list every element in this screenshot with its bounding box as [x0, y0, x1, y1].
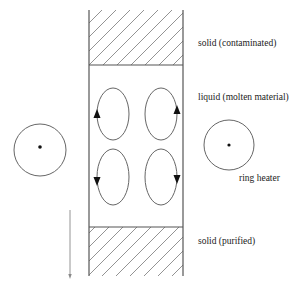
convection-cell-bottom-right [145, 149, 181, 205]
convection-cell-top-left [94, 88, 130, 140]
label-solid-purified: solid (purified) [198, 237, 255, 247]
ring-heater-left [14, 124, 66, 176]
arrow-down-icon [94, 177, 101, 186]
arrow-up-icon [174, 105, 181, 114]
label-liquid-molten: liquid (molten material) [198, 93, 289, 103]
arrow-down-icon [68, 274, 71, 279]
heater-center-dot-icon [227, 143, 230, 146]
arrow-up-icon [94, 109, 101, 118]
label-solid-contaminated: solid (contaminated) [198, 39, 276, 49]
arrow-down-icon [174, 175, 181, 184]
ring-heater-right [204, 120, 254, 170]
label-ring-heater: ring heater [239, 174, 280, 184]
solid-contaminated-block [89, 10, 183, 65]
heater-center-dot-icon [38, 145, 42, 149]
convection-cell-top-right [145, 88, 181, 140]
solid-purified-block [89, 227, 183, 276]
convection-cell-bottom-left [94, 149, 130, 205]
motion-arrow-down [68, 210, 71, 279]
